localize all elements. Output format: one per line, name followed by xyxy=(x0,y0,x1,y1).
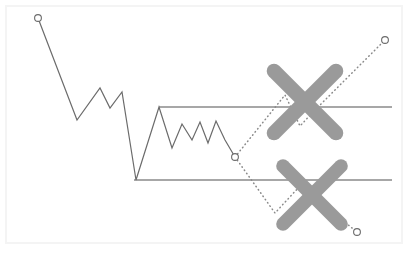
branch-point xyxy=(232,154,239,161)
chart-panel xyxy=(0,0,412,259)
bullish-target xyxy=(382,37,389,44)
start-point xyxy=(35,15,42,22)
panel-background xyxy=(0,0,412,259)
chart-canvas xyxy=(0,0,412,259)
bearish-target xyxy=(354,229,361,236)
